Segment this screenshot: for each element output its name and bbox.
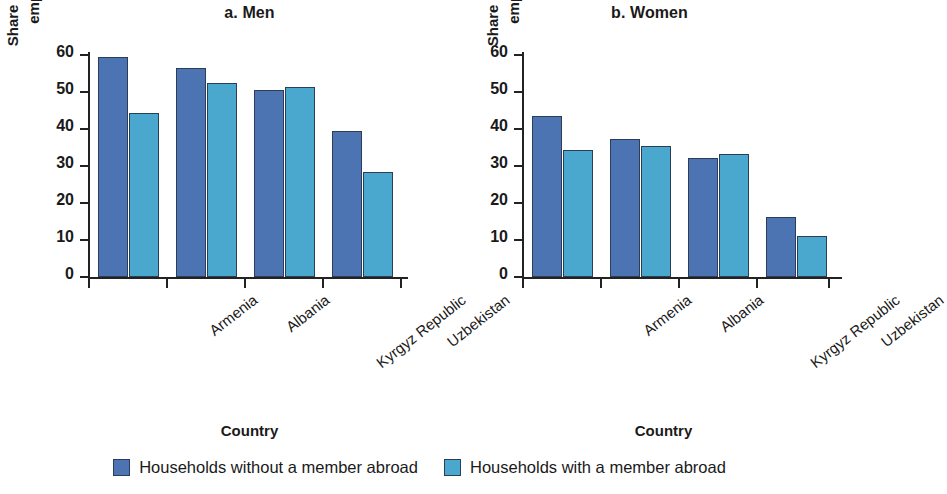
y-tick-label-men-6: 60	[34, 43, 74, 61]
y-tick-women-2: 20	[514, 202, 522, 204]
bar-women-kyrgyz-republic-with[interactable]	[719, 154, 749, 277]
y-tick-men-5: 50	[80, 91, 88, 93]
y-tick-label-women-6: 60	[468, 43, 508, 61]
bar-men-kyrgyz-republic-without[interactable]	[254, 90, 284, 277]
bar-men-albania-with[interactable]	[207, 83, 237, 277]
y-tick-men-2: 20	[80, 202, 88, 204]
bar-women-armenia-with[interactable]	[563, 150, 593, 277]
y-axis-line-women	[522, 52, 524, 278]
panel-title-men: a. Men	[0, 4, 459, 22]
y-tick-label-women-4: 40	[468, 117, 508, 135]
bar-men-uzbekistan-without[interactable]	[332, 131, 362, 277]
legend-item-with-abroad[interactable]: Households with a member abroad	[444, 458, 726, 477]
y-tick-label-men-1: 10	[34, 228, 74, 246]
bar-women-albania-with[interactable]	[641, 146, 671, 277]
x-label-men-armenia: Armenia	[206, 291, 260, 339]
x-axis-line-women	[522, 277, 842, 279]
chart-legend: Households without a member abroad House…	[0, 458, 839, 477]
bar-women-uzbekistan-with[interactable]	[797, 236, 827, 277]
y-axis-line-men	[88, 52, 90, 278]
y-tick-label-women-3: 30	[468, 154, 508, 172]
plot-area-women: 0 10 20 30 40 50 60	[522, 53, 842, 277]
panel-men: a. Men Share of individuals employed (%)…	[0, 0, 419, 450]
x-tick-women-2	[678, 279, 680, 288]
bar-men-uzbekistan-with[interactable]	[363, 172, 393, 277]
y-tick-label-women-5: 50	[468, 80, 508, 98]
y-tick-women-0: 0	[514, 276, 522, 278]
y-tick-men-4: 40	[80, 128, 88, 130]
y-tick-women-3: 30	[514, 165, 522, 167]
bar-women-kyrgyz-republic-without[interactable]	[688, 158, 718, 277]
x-axis-title-men: Country	[0, 422, 459, 439]
bar-men-armenia-without[interactable]	[98, 57, 128, 277]
y-tick-women-1: 10	[514, 239, 522, 241]
x-tick-men-4	[400, 279, 402, 288]
legend-label-without-abroad: Households without a member abroad	[139, 458, 418, 477]
bar-women-uzbekistan-without[interactable]	[766, 217, 796, 277]
y-tick-label-men-3: 30	[34, 154, 74, 172]
plot-area-men: 0 10 20 30 40 50 60	[88, 53, 408, 277]
bar-men-albania-without[interactable]	[176, 68, 206, 277]
y-tick-label-women-1: 10	[468, 228, 508, 246]
x-tick-men-3	[322, 279, 324, 288]
y-tick-men-3: 30	[80, 165, 88, 167]
legend-swatch-with-abroad	[444, 459, 461, 476]
panel-women: b. Women Share of individuals employed (…	[420, 0, 839, 450]
bar-men-armenia-with[interactable]	[129, 113, 159, 277]
y-tick-men-6: 60	[80, 54, 88, 56]
x-tick-women-1	[600, 279, 602, 288]
y-tick-women-6: 60	[514, 54, 522, 56]
y-tick-women-4: 40	[514, 128, 522, 130]
x-tick-men-0	[88, 279, 90, 288]
y-tick-men-0: 0	[80, 276, 88, 278]
legend-label-with-abroad: Households with a member abroad	[470, 458, 726, 477]
y-tick-label-women-2: 20	[468, 191, 508, 209]
x-tick-men-2	[244, 279, 246, 288]
y-tick-label-women-0: 0	[468, 265, 508, 283]
legend-item-without-abroad[interactable]: Households without a member abroad	[113, 458, 418, 477]
y-tick-label-men-0: 0	[34, 265, 74, 283]
x-tick-women-0	[522, 279, 524, 288]
y-tick-men-1: 10	[80, 239, 88, 241]
y-tick-label-men-5: 50	[34, 80, 74, 98]
bar-women-armenia-without[interactable]	[532, 116, 562, 277]
x-axis-line-men	[88, 277, 408, 279]
x-tick-women-4	[828, 279, 830, 288]
bar-men-kyrgyz-republic-with[interactable]	[285, 87, 315, 277]
x-label-men-albania: Albania	[283, 291, 333, 335]
y-tick-label-men-4: 40	[34, 117, 74, 135]
y-tick-label-men-2: 20	[34, 191, 74, 209]
x-label-women-armenia: Armenia	[640, 291, 694, 339]
legend-swatch-without-abroad	[113, 459, 130, 476]
x-tick-men-1	[166, 279, 168, 288]
y-tick-women-5: 50	[514, 91, 522, 93]
x-axis-title-women: Country	[420, 422, 873, 439]
x-label-women-albania: Albania	[717, 291, 767, 335]
x-tick-women-3	[756, 279, 758, 288]
bar-women-albania-without[interactable]	[610, 139, 640, 277]
